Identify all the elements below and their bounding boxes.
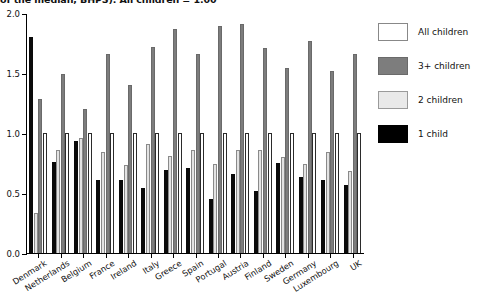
legend-swatch-three [378,57,408,75]
bar [178,133,182,253]
bar [96,180,100,253]
bar [61,74,65,253]
bar [240,24,244,253]
x-axis-labels: DenmarkNetherlandsBelgiumFranceIrelandIt… [27,256,364,296]
bar [245,133,249,253]
legend-label: All children [418,27,468,37]
bar-groups [27,14,364,253]
bar [213,164,217,253]
bar-group [139,14,161,253]
bar [299,177,303,253]
bar-group [94,14,116,253]
bar-group [184,14,206,253]
bar [133,133,137,253]
bar [209,199,213,253]
bar [196,54,200,253]
bar [83,109,87,253]
bar [258,150,262,253]
bar [74,141,78,253]
bar-group [72,14,94,253]
bar [65,133,69,253]
bar-group [49,14,71,253]
bar [110,133,114,253]
bar-group [274,14,296,253]
y-tick-label: 0.0 [6,249,20,259]
legend-item[interactable]: All children [378,22,482,42]
bar-group [27,14,49,253]
bar [236,150,240,253]
bar [231,174,235,253]
bar [290,133,294,253]
bar [348,171,352,253]
bar [38,99,42,253]
legend-label: 1 child [418,129,448,139]
y-tick-label: 1.5 [6,69,20,79]
bar [79,138,83,253]
x-tick-label: UK [348,258,363,273]
bar [164,170,168,253]
bar [191,150,195,253]
bar [312,133,316,253]
bar-group [162,14,184,253]
legend-label: 2 children [418,95,463,105]
bar [263,48,267,253]
bar [268,133,272,253]
bar [223,133,227,253]
bar [326,152,330,253]
bar [29,37,33,253]
bar [128,85,132,253]
bar [151,47,155,253]
figure-caption: of the median, BHPS). All children = 1.0… [0,0,380,5]
bar [303,164,307,253]
bar [56,150,60,253]
bar-group [117,14,139,253]
bar [43,133,47,253]
bar [330,71,334,253]
legend-item[interactable]: 1 child [378,124,482,144]
bar [254,191,258,253]
bar [344,185,348,253]
bar-group [297,14,319,253]
bar [168,156,172,253]
bar [34,213,38,253]
chart-figure: of the median, BHPS). All children = 1.0… [0,0,483,296]
bar [357,133,361,253]
bar-group [229,14,251,253]
bar-group [252,14,274,253]
bar [119,180,123,253]
bar [335,133,339,253]
bar [88,133,92,253]
bar [200,133,204,253]
bar [276,163,280,253]
bar [101,152,105,253]
chart-legend: All children3+ children2 children1 child [378,22,482,158]
y-tick-label: 0.5 [6,189,20,199]
bar [106,54,110,253]
bar [141,188,145,253]
legend-item[interactable]: 3+ children [378,56,482,76]
legend-swatch-two [378,91,408,109]
legend-label: 3+ children [418,61,470,71]
legend-swatch-all [378,23,408,41]
bar-group [342,14,364,253]
bar [218,26,222,253]
bar-group [207,14,229,253]
bar [155,133,159,253]
bar [146,144,150,253]
plot-area: 0.00.51.01.52.0 [26,14,364,254]
y-tick-label: 1.0 [6,129,20,139]
bar [353,54,357,253]
legend-swatch-one [378,125,408,143]
legend-item[interactable]: 2 children [378,90,482,110]
bar [285,68,289,253]
bar [173,29,177,253]
bar [52,162,56,253]
bar [186,168,190,253]
bar [308,41,312,253]
bar [321,180,325,253]
y-tick-label: 2.0 [6,9,20,19]
bar [281,157,285,253]
bar-group [319,14,341,253]
bar [124,165,128,253]
